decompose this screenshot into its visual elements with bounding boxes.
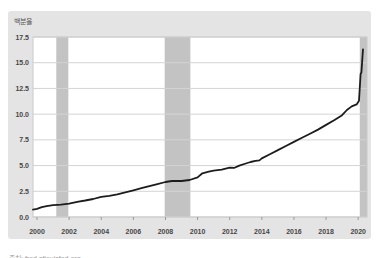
x-tick-label: 2008 (158, 228, 174, 235)
plot-area (33, 37, 367, 217)
y-tick-label: 0.0 (19, 214, 29, 221)
y-tick-label: 2.5 (19, 188, 29, 195)
recession-band (56, 37, 68, 217)
y-tick-label: 12.5 (15, 85, 29, 92)
chart-svg: 0.02.55.07.510.012.515.017.5200020022004… (8, 11, 371, 239)
y-axis-unit-label: 백분율 (14, 16, 32, 26)
x-tick-label: 2012 (222, 228, 238, 235)
x-tick-label: 2016 (286, 228, 302, 235)
x-tick-label: 2014 (254, 228, 270, 235)
y-tick-label: 10.0 (15, 111, 29, 118)
chart-panel: 백분율 0.02.55.07.510.012.515.017.520002002… (8, 11, 371, 239)
x-tick-label: 2010 (190, 228, 206, 235)
y-tick-label: 15.0 (15, 59, 29, 66)
x-tick-label: 2006 (126, 228, 142, 235)
x-tick-label: 2000 (29, 228, 45, 235)
recession-band (360, 37, 367, 217)
x-tick-label: 2020 (350, 228, 366, 235)
x-tick-label: 2004 (93, 228, 109, 235)
y-tick-label: 5.0 (19, 162, 29, 169)
source-caption: 출처: fred.stlouisfed.org (9, 253, 81, 258)
y-tick-label: 7.5 (19, 136, 29, 143)
x-tick-label: 2018 (318, 228, 334, 235)
recession-band (165, 37, 191, 217)
chart-figure: 백분율 0.02.55.07.510.012.515.017.520002002… (0, 0, 377, 258)
y-tick-label: 17.5 (15, 34, 29, 41)
x-tick-label: 2002 (61, 228, 77, 235)
